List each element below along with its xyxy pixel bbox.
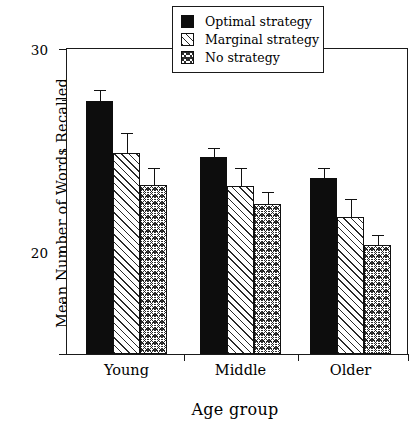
plot-area: 0102030 xyxy=(66,48,408,355)
cross-hatch-swatch-icon xyxy=(181,51,194,64)
bar-older-marginal xyxy=(337,217,364,354)
legend-item-none: No strategy xyxy=(181,48,316,66)
bar-older-none xyxy=(364,245,391,354)
bar-young-marginal xyxy=(113,153,140,354)
error-bar-cap xyxy=(235,168,247,169)
error-bar-stem xyxy=(378,235,379,245)
legend-label-optimal: Optimal strategy xyxy=(205,14,312,29)
y-tick-major: 20 xyxy=(59,151,67,152)
error-bar-stem xyxy=(351,199,352,216)
x-tick xyxy=(408,354,409,361)
error-bar-stem xyxy=(154,168,155,185)
y-tick-label: 20 xyxy=(31,245,48,261)
bar-middle-optimal xyxy=(200,157,227,354)
y-tick-major: 30 xyxy=(59,49,67,50)
error-bar-cap xyxy=(121,133,133,134)
error-bar-stem xyxy=(324,168,325,178)
y-tick-minor xyxy=(62,202,67,203)
y-tick-major: 0 xyxy=(59,354,67,355)
bar-middle-none xyxy=(254,204,281,354)
error-bar-stem xyxy=(241,168,242,186)
bar-young-optimal xyxy=(86,101,113,354)
bar-chart-figure: Mean Number of Words Recalled 0102030 Yo… xyxy=(0,0,420,435)
error-bar-cap xyxy=(94,90,106,91)
bar-young-none xyxy=(140,185,167,354)
x-tick-label-older: Older xyxy=(330,362,371,378)
x-tick xyxy=(184,354,185,361)
x-tick xyxy=(298,354,299,361)
legend-item-optimal: Optimal strategy xyxy=(181,12,316,30)
y-tick-minor xyxy=(62,303,67,304)
error-bar-cap xyxy=(262,192,274,193)
diagonal-hatch-swatch-icon xyxy=(181,33,194,46)
error-bar-cap xyxy=(318,168,330,169)
plot-inner: 0102030 xyxy=(67,49,407,354)
bar-middle-marginal xyxy=(227,186,254,354)
error-bar-stem xyxy=(127,133,128,152)
legend-label-marginal: Marginal strategy xyxy=(205,32,319,47)
bar-older-optimal xyxy=(310,178,337,354)
error-bar-cap xyxy=(208,148,220,149)
error-bar-cap xyxy=(345,199,357,200)
chart-legend: Optimal strategy Marginal strategy No st… xyxy=(172,6,324,73)
error-bar-cap xyxy=(372,235,384,236)
x-tick-label-young: Young xyxy=(104,362,149,378)
x-axis-title: Age group xyxy=(60,400,410,419)
y-tick-label: 30 xyxy=(31,42,48,58)
y-tick-major: 10 xyxy=(59,252,67,253)
error-bar-stem xyxy=(100,90,101,101)
solid-black-swatch-icon xyxy=(181,15,194,28)
y-tick-minor xyxy=(62,100,67,101)
error-bar-cap xyxy=(148,168,160,169)
legend-item-marginal: Marginal strategy xyxy=(181,30,316,48)
error-bar-stem xyxy=(214,148,215,157)
error-bar-stem xyxy=(268,192,269,203)
x-tick-label-middle: Middle xyxy=(215,362,266,378)
legend-label-none: No strategy xyxy=(205,50,280,65)
